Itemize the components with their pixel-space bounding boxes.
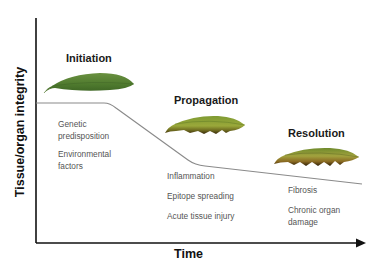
factor-fibrosis: Fibrosis <box>288 185 317 196</box>
factor-factors: factors <box>58 161 83 172</box>
phase-title-resolution: Resolution <box>288 127 345 139</box>
integrity-over-time-diagram: Tissue/organ integrity Time Initiation P… <box>0 0 379 273</box>
factor-predisposition: predisposition <box>58 131 109 142</box>
x-axis-label: Time <box>174 247 203 261</box>
y-axis-label: Tissue/organ integrity <box>13 62 27 202</box>
phase-title-propagation: Propagation <box>174 94 238 106</box>
factor-environmental: Environmental <box>58 149 111 160</box>
damaged-leaf-icon <box>165 116 245 134</box>
x-axis-arrowhead-icon <box>356 239 366 248</box>
factor-inflammation: Inflammation <box>167 171 215 182</box>
factor-acute-tissue-injury: Acute tissue injury <box>167 211 234 222</box>
factor-damage: damage <box>288 217 318 228</box>
fibrotic-leaf-icon <box>274 148 359 166</box>
factor-genetic: Genetic <box>58 119 87 130</box>
factor-chronic-organ: Chronic organ <box>288 205 340 216</box>
healthy-leaf-icon <box>44 73 134 93</box>
phase-title-initiation: Initiation <box>66 52 112 64</box>
factor-epitope-spreading: Epitope spreading <box>167 191 234 202</box>
